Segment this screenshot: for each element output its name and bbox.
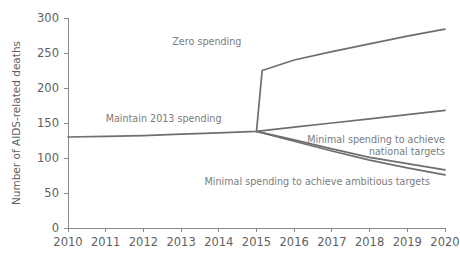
x-tick-label: 2012 [129,235,158,249]
x-tick-label: 2016 [280,235,309,249]
annotation-minimal-national-targets: Minimal spending to achievenational targ… [307,134,445,157]
annotation-minimal-ambitious-targets: Minimal spending to achieve ambitious ta… [205,176,430,187]
x-tick-label: 2014 [204,235,233,249]
x-tick-label: 2019 [393,235,422,249]
x-tick-label: 2020 [430,235,459,249]
annotation-maintain-2013-spending: Maintain 2013 spending [106,113,222,124]
series-line [257,29,446,131]
x-axis-ticks: 2010201120122013201420152016201720182019… [53,228,459,249]
x-tick-label: 2010 [53,235,82,249]
y-tick-label: 100 [37,151,59,165]
series-annotations: Maintain 2013 spendingZero spendingMinim… [106,36,445,187]
x-tick-label: 2017 [317,235,346,249]
y-tick-label: 0 [52,221,59,235]
x-tick-label: 2011 [91,235,120,249]
y-axis-title-group: Number of AIDS-related deaths [10,41,22,205]
y-tick-label: 250 [37,46,59,60]
x-tick-label: 2018 [355,235,384,249]
y-tick-label: 300 [37,11,59,25]
annotation-zero-spending: Zero spending [172,36,241,47]
aids-deaths-line-chart: Number of AIDS-related deaths 0501001502… [0,0,460,265]
y-tick-label: 200 [37,81,59,95]
y-axis-title: Number of AIDS-related deaths [10,41,22,205]
y-axis-ticks: 050100150200250300 [37,11,68,235]
y-tick-label: 150 [37,116,59,130]
y-tick-label: 50 [44,186,59,200]
x-tick-label: 2015 [242,235,271,249]
x-tick-label: 2013 [166,235,195,249]
chart-canvas: Number of AIDS-related deaths 0501001502… [0,0,460,265]
